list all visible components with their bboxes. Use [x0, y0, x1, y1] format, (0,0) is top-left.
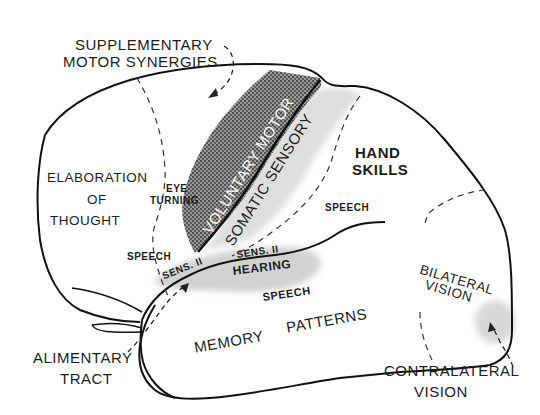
orbital-line-upper [72, 288, 142, 312]
speech-upper-label: SPEECH [325, 203, 369, 213]
eye-turning-label-1: EYE [166, 184, 188, 194]
contralateral-vision-label-1: CONTRALATERAL [384, 363, 519, 378]
alimentary-arrow [128, 286, 185, 352]
elaboration-label-3: THOUGHT [50, 214, 120, 228]
hand-skills-label-1: HAND [355, 145, 400, 160]
temporal-front [141, 320, 175, 398]
supplementary-label-1: SUPPLEMENTARY [75, 37, 213, 52]
brain-diagram: SUPPLEMENTARY MOTOR SYNERGIES ELABORATIO… [0, 0, 540, 415]
eye-turning-label-2: TURNING [150, 196, 199, 206]
speech-left-label: SPEECH [127, 252, 171, 262]
alimentary-label-2: TRACT [60, 371, 113, 386]
occipital-boundary [425, 190, 485, 228]
hand-skills-label-2: SKILLS [352, 162, 408, 177]
occipital-lower-boundary [420, 312, 432, 360]
contralateral-vision-area [475, 300, 515, 344]
prefrontal-boundary [137, 78, 168, 296]
contralateral-vision-label-2: VISION [414, 384, 468, 399]
supplementary-label-2: MOTOR SYNERGIES [63, 54, 218, 69]
frontal-outline [38, 135, 140, 322]
alimentary-label-1: ALIMENTARY [33, 350, 132, 365]
elaboration-label-1: ELABORATION [47, 171, 148, 185]
orbital-line-lower [92, 324, 142, 328]
elaboration-label-2: OF [87, 193, 107, 207]
supplementary-arrowhead [208, 88, 218, 98]
